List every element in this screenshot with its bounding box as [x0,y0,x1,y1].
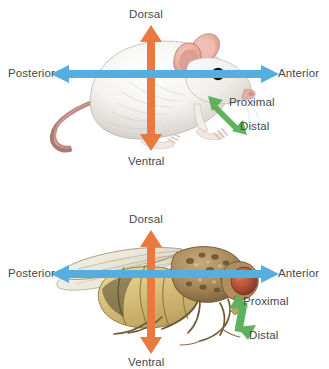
label-anterior: Anterior [278,267,319,280]
label-proximal: Proximal [243,295,289,308]
dorsal-ventral-axis-arrow [138,24,164,152]
dorsal-ventral-axis-arrow [138,229,164,355]
label-posterior: Posterior [8,267,55,280]
panel-mouse: Dorsal Ventral Posterior Anterior Proxim… [0,0,329,180]
anterior-posterior-axis-arrow [50,63,280,85]
label-ventral: Ventral [128,356,165,369]
label-dorsal: Dorsal [129,213,163,226]
fruit-fly-illustration [50,205,275,350]
anterior-posterior-axis-arrow [50,263,280,285]
mouse-illustration [48,24,258,154]
label-posterior: Posterior [8,67,55,80]
panel-fly: Dorsal Ventral Posterior Anterior Proxim… [0,185,329,369]
label-dorsal: Dorsal [129,8,163,21]
label-proximal: Proximal [229,96,275,109]
label-anterior: Anterior [278,67,319,80]
label-distal: Distal [240,120,269,133]
anatomical-axes-figure: Dorsal Ventral Posterior Anterior Proxim… [0,0,329,369]
label-distal: Distal [249,329,278,342]
label-ventral: Ventral [128,155,165,168]
